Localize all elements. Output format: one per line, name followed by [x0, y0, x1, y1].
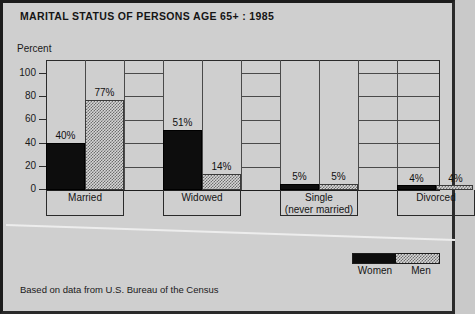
gridline	[397, 73, 439, 74]
slot-divider	[124, 60, 125, 190]
bar-value-label: 5%	[319, 171, 358, 182]
divider-line-icon	[6, 221, 455, 243]
gridline	[358, 96, 397, 97]
plot-border-right	[439, 60, 440, 190]
gridline	[124, 120, 163, 121]
slot-divider	[397, 60, 398, 190]
category-box-widowed: Widowed	[163, 190, 241, 216]
bar-value-label: 5%	[280, 171, 319, 182]
bar-value-label: 51%	[163, 117, 202, 128]
legend: Women Men	[352, 253, 444, 276]
gridline	[241, 73, 280, 74]
bar-value-label: 4%	[436, 173, 475, 184]
y-tick-mark	[39, 96, 46, 97]
legend-swatch-women	[353, 254, 396, 263]
category-label: Single(never married)	[285, 192, 353, 215]
legend-label-women: Women	[352, 265, 398, 276]
bar-married-women	[46, 143, 85, 190]
y-tick-mark	[39, 189, 46, 190]
legend-swatches	[352, 253, 440, 264]
slot-divider	[358, 60, 359, 190]
y-tick-label: 80	[8, 90, 36, 101]
gridline	[397, 167, 439, 168]
section-divider	[6, 221, 455, 243]
gridline	[358, 143, 397, 144]
bar-value-label: 4%	[397, 173, 436, 184]
bar-married-men	[85, 100, 124, 190]
category-box-married: Married	[46, 190, 124, 216]
y-tick-mark	[39, 119, 46, 120]
gridline	[124, 73, 163, 74]
y-tick-label: 60	[8, 113, 36, 124]
gridline	[397, 143, 439, 144]
gridline	[241, 120, 280, 121]
bar-value-label: 14%	[202, 161, 241, 172]
y-tick-mark	[39, 143, 46, 144]
bar-widowed-women	[163, 130, 202, 190]
category-label: Divorced	[416, 192, 455, 204]
gridline	[124, 96, 163, 97]
category-label: Married	[68, 192, 102, 204]
gridline	[241, 96, 280, 97]
gridline	[358, 120, 397, 121]
gridline	[397, 120, 439, 121]
category-box-divorced: Divorced	[397, 190, 475, 216]
gridline	[124, 167, 163, 168]
bar-value-label: 77%	[85, 87, 124, 98]
source-note: Based on data from U.S. Bureau of the Ce…	[20, 284, 219, 295]
legend-swatch-men	[396, 254, 439, 263]
y-tick-mark	[39, 73, 46, 74]
y-tick-label: 40	[8, 137, 36, 148]
y-axis-title: Percent	[17, 43, 51, 54]
legend-label-men: Men	[398, 265, 444, 276]
gridline	[241, 167, 280, 168]
y-tick-label: 20	[8, 160, 36, 171]
bar-widowed-men	[202, 174, 241, 190]
gridline	[241, 143, 280, 144]
gridline	[124, 143, 163, 144]
plot-area: 40% 77% 51% 14% 5% 5% 4% 4%	[46, 60, 440, 190]
legend-labels: Women Men	[352, 265, 444, 276]
gridline	[358, 73, 397, 74]
bar-value-label: 40%	[46, 130, 85, 141]
page-title: MARITAL STATUS OF PERSONS AGE 65+ : 1985	[20, 10, 274, 22]
y-tick-label: 100	[8, 67, 36, 78]
gridline	[358, 167, 397, 168]
slot-divider	[241, 60, 242, 190]
y-tick-label: 0	[8, 183, 36, 194]
gridline	[397, 96, 439, 97]
category-label: Widowed	[181, 192, 222, 204]
category-box-single: Single(never married)	[280, 190, 358, 216]
y-tick-mark	[39, 166, 46, 167]
